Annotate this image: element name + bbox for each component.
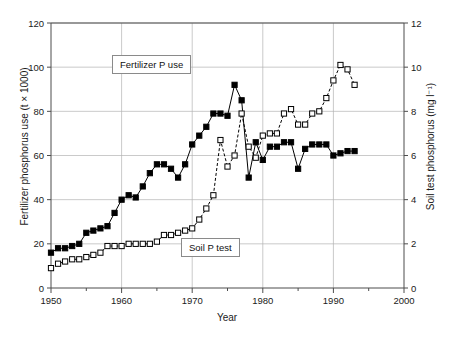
data-point-fertilizer-p-use: [345, 148, 350, 153]
data-point-fertilizer-p-use: [232, 82, 237, 87]
tick-label-x: 2000: [393, 295, 414, 306]
data-point-fertilizer-p-use: [218, 111, 223, 116]
data-point-soil-p-test: [133, 241, 138, 246]
data-point-fertilizer-p-use: [267, 144, 272, 149]
data-point-fertilizer-p-use: [161, 162, 166, 167]
data-point-fertilizer-p-use: [84, 230, 89, 235]
x-axis-title: Year: [152, 312, 302, 323]
data-point-fertilizer-p-use: [168, 166, 173, 171]
data-point-soil-p-test: [274, 131, 279, 136]
data-point-soil-p-test: [55, 261, 60, 266]
data-point-fertilizer-p-use: [338, 151, 343, 156]
data-point-fertilizer-p-use: [260, 157, 265, 162]
series-line-fertilizer-p-use: [51, 85, 355, 253]
data-point-fertilizer-p-use: [154, 162, 159, 167]
tick-label-y-right: 0: [411, 283, 416, 294]
y-axis-right-title: Soil test phosphorus (mg l⁻¹): [425, 47, 436, 247]
data-point-fertilizer-p-use: [225, 113, 230, 118]
data-point-soil-p-test: [105, 243, 110, 248]
tick-label-y-left: 120: [28, 18, 44, 29]
data-point-fertilizer-p-use: [190, 142, 195, 147]
chart-plot-area: 0204060801001200246810121950196019701980…: [0, 0, 454, 339]
data-point-soil-p-test: [218, 137, 223, 142]
data-point-soil-p-test: [324, 95, 329, 100]
data-point-fertilizer-p-use: [133, 195, 138, 200]
data-point-fertilizer-p-use: [126, 193, 131, 198]
tick-label-y-right: 2: [411, 238, 416, 249]
data-point-fertilizer-p-use: [55, 246, 60, 251]
data-point-soil-p-test: [232, 153, 237, 158]
data-point-soil-p-test: [154, 239, 159, 244]
data-point-fertilizer-p-use: [253, 140, 258, 145]
data-point-fertilizer-p-use: [274, 144, 279, 149]
data-point-fertilizer-p-use: [246, 175, 251, 180]
data-point-soil-p-test: [77, 257, 82, 262]
data-point-fertilizer-p-use: [183, 162, 188, 167]
data-point-fertilizer-p-use: [310, 142, 315, 147]
tick-label-y-left: 100: [28, 62, 44, 73]
tick-label-y-right: 6: [411, 150, 416, 161]
data-point-fertilizer-p-use: [324, 142, 329, 147]
data-point-soil-p-test: [161, 232, 166, 237]
data-point-fertilizer-p-use: [147, 171, 152, 176]
data-point-soil-p-test: [70, 257, 75, 262]
annotation-soil-p-test: Soil P test: [181, 238, 240, 257]
data-point-soil-p-test: [175, 230, 180, 235]
tick-label-x: 1990: [323, 295, 344, 306]
data-point-soil-p-test: [345, 67, 350, 72]
data-point-soil-p-test: [281, 111, 286, 116]
data-point-fertilizer-p-use: [105, 224, 110, 229]
tick-label-y-right: 8: [411, 106, 416, 117]
data-point-soil-p-test: [91, 252, 96, 257]
data-point-fertilizer-p-use: [63, 246, 68, 251]
data-point-fertilizer-p-use: [119, 197, 124, 202]
tick-label-y-left: 40: [33, 194, 44, 205]
data-point-soil-p-test: [140, 241, 145, 246]
data-point-soil-p-test: [48, 266, 53, 271]
y-axis-left-title: Fertilizer phosphorus use (t × 1000): [19, 47, 30, 247]
data-point-soil-p-test: [126, 241, 131, 246]
tick-label-y-right: 4: [411, 194, 416, 205]
data-point-fertilizer-p-use: [352, 148, 357, 153]
data-point-soil-p-test: [260, 133, 265, 138]
tick-label-y-right: 10: [411, 62, 422, 73]
data-point-soil-p-test: [317, 109, 322, 114]
tick-label-y-left: 0: [39, 283, 44, 294]
data-point-soil-p-test: [267, 131, 272, 136]
tick-label-y-left: 80: [33, 106, 44, 117]
tick-label-x: 1950: [40, 295, 61, 306]
tick-label-x: 1980: [252, 295, 273, 306]
data-point-fertilizer-p-use: [91, 228, 96, 233]
data-point-soil-p-test: [147, 241, 152, 246]
data-point-fertilizer-p-use: [331, 153, 336, 158]
data-point-soil-p-test: [288, 107, 293, 112]
data-point-fertilizer-p-use: [296, 166, 301, 171]
tick-label-x: 1960: [111, 295, 132, 306]
data-point-fertilizer-p-use: [98, 226, 103, 231]
data-point-fertilizer-p-use: [211, 111, 216, 116]
data-point-soil-p-test: [84, 254, 89, 259]
data-point-soil-p-test: [190, 226, 195, 231]
tick-label-y-right: 12: [411, 18, 422, 29]
data-point-fertilizer-p-use: [77, 241, 82, 246]
data-point-soil-p-test: [204, 206, 209, 211]
data-point-fertilizer-p-use: [197, 133, 202, 138]
data-point-soil-p-test: [352, 82, 357, 87]
data-point-fertilizer-p-use: [239, 98, 244, 103]
data-point-soil-p-test: [296, 122, 301, 127]
data-point-fertilizer-p-use: [281, 140, 286, 145]
data-point-fertilizer-p-use: [48, 250, 53, 255]
annotation-fertilizer-p-use: Fertilizer P use: [112, 55, 191, 74]
data-point-soil-p-test: [168, 232, 173, 237]
tick-label-y-left: 20: [33, 238, 44, 249]
data-point-soil-p-test: [331, 78, 336, 83]
data-point-soil-p-test: [303, 122, 308, 127]
data-point-fertilizer-p-use: [112, 210, 117, 215]
data-point-soil-p-test: [98, 250, 103, 255]
data-point-fertilizer-p-use: [175, 175, 180, 180]
data-point-fertilizer-p-use: [70, 243, 75, 248]
data-point-soil-p-test: [310, 111, 315, 116]
data-point-soil-p-test: [112, 243, 117, 248]
data-point-soil-p-test: [239, 111, 244, 116]
tick-label-x: 1970: [182, 295, 203, 306]
